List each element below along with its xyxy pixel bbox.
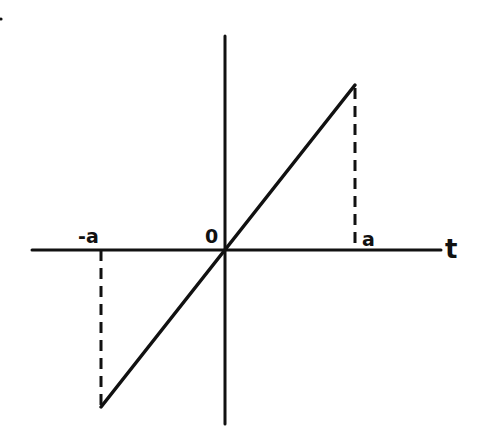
stray-dot [0,17,3,20]
tick-label-neg-a: -a [78,225,99,247]
function-line [101,85,355,407]
tick-label-a: a [362,228,375,250]
origin-label: 0 [205,225,218,247]
function-graph: -a 0 a t [0,0,485,447]
t-axis-label: t [445,234,457,264]
